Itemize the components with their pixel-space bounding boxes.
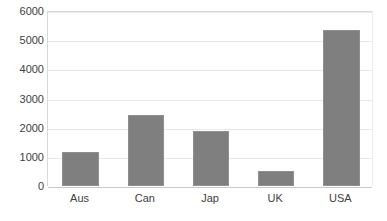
bar-aus [62,152,99,186]
y-tick-label: 6000 [0,6,44,17]
y-tick-label: 1000 [0,151,44,162]
bars [48,12,372,186]
x-tick-label-usa: USA [329,192,352,205]
axis-baseline [48,187,372,188]
bar-chart: 0100020003000400050006000 AusCanJapUKUSA [0,0,387,221]
y-tick-label: 0 [0,181,44,192]
y-tick-label: 4000 [0,64,44,75]
bar-jap [193,131,230,186]
y-axis: 0100020003000400050006000 [0,0,44,221]
plot-area [47,11,373,186]
bar-uk [258,171,295,186]
x-tick-label-uk: UK [268,192,283,205]
bar-can [128,115,165,186]
y-tick-label: 5000 [0,35,44,46]
y-tick-label: 3000 [0,93,44,104]
x-tick-label-aus: Aus [70,192,89,205]
x-tick-label-jap: Jap [201,192,219,205]
x-tick-label-can: Can [135,192,155,205]
x-axis: AusCanJapUKUSA [47,190,373,212]
y-tick-label: 2000 [0,122,44,133]
bar-usa [323,30,360,186]
